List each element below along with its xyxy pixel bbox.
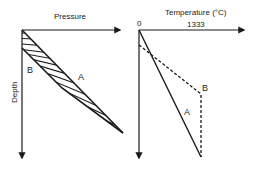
left-curve-b-label: B bbox=[27, 66, 33, 75]
temperature-tick-1333: 1333 bbox=[187, 21, 205, 29]
hatched-region bbox=[10, 33, 130, 136]
diagram-canvas bbox=[0, 0, 254, 170]
temperature-origin-tick: 0 bbox=[137, 20, 141, 28]
right-panel bbox=[139, 30, 244, 158]
left-curve-a bbox=[22, 30, 123, 133]
left-curve-a-label: A bbox=[78, 73, 84, 82]
temperature-axis-label: Temperature (°C) bbox=[165, 9, 226, 17]
right-curve-b bbox=[139, 45, 201, 157]
left-panel bbox=[10, 30, 130, 158]
depth-axis-label: Depth bbox=[11, 82, 19, 103]
right-curve-a bbox=[139, 30, 201, 157]
right-curve-b-label: B bbox=[202, 84, 208, 93]
right-curve-a-label: A bbox=[184, 108, 190, 117]
pressure-axis-label: Pressure bbox=[54, 13, 86, 21]
